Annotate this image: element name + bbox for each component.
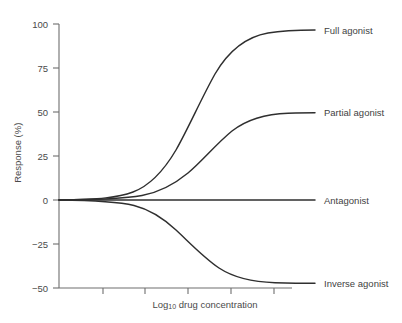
x-axis-ticks	[103, 288, 274, 294]
series-label-inverse-agonist: Inverse agonist	[324, 279, 388, 289]
y-tick-label-0: 0	[10, 196, 48, 206]
series-label-antagonist: Antagonist	[324, 196, 369, 206]
y-tick-label-minus50: −50	[10, 284, 48, 294]
y-axis-title: Response (%)	[13, 113, 23, 193]
dose-response-chart: 100 75 50 25 0 −25 −50 Full agonist Part…	[0, 0, 402, 323]
x-axis-title-subscript: 10	[168, 303, 176, 310]
curve-partial-agonist	[59, 113, 315, 200]
y-tick-label-100: 100	[10, 20, 48, 30]
series-label-partial-agonist: Partial agonist	[324, 108, 384, 118]
x-axis-title: Log10 drug concentration	[120, 300, 290, 310]
y-axis-ticks	[53, 24, 59, 288]
y-tick-label-minus25: −25	[10, 240, 48, 250]
x-axis-title-base: Log	[153, 299, 169, 310]
x-axis-title-rest: drug concentration	[176, 299, 257, 310]
chart-plot-area	[0, 0, 402, 323]
curve-inverse-agonist	[59, 200, 315, 283]
series-label-full-agonist: Full agonist	[324, 26, 373, 36]
y-tick-label-75: 75	[10, 64, 48, 74]
